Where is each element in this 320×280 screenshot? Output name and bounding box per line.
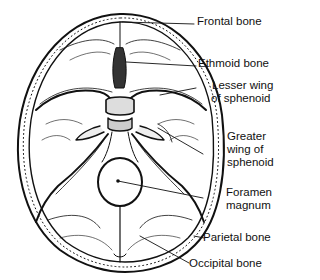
- label-greater-wing-line1: Greater: [227, 130, 266, 143]
- label-lesser-wing-line2: of sphenoid: [211, 92, 270, 105]
- label-parietal-bone: Parietal bone: [203, 231, 271, 244]
- label-occipital-bone: Occipital bone: [189, 257, 262, 270]
- ethmoid-region: [113, 48, 126, 88]
- label-greater-wing-line3: sphenoid: [227, 156, 274, 169]
- label-foramen-magnum-line2: magnum: [226, 199, 271, 212]
- label-greater-wing-line2: wing of: [227, 143, 263, 156]
- sella-turcica: [106, 97, 134, 115]
- label-foramen-magnum-line1: Foramen: [226, 186, 272, 199]
- label-lesser-wing-line1: Lesser wing: [212, 79, 273, 92]
- label-ethmoid-bone: Ethmoid bone: [198, 57, 269, 70]
- lesser-wing-left: [36, 91, 114, 110]
- foramen-magnum-shape: [98, 158, 142, 206]
- label-frontal-bone: Frontal bone: [197, 15, 262, 28]
